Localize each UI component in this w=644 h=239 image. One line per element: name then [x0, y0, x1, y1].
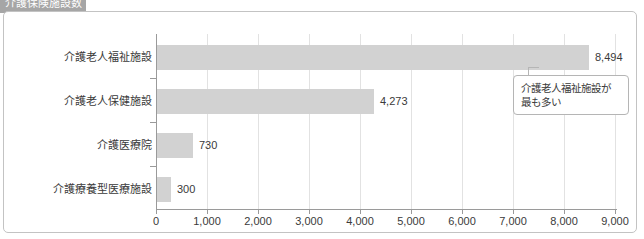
x-axis-tick — [207, 210, 208, 214]
x-axis-tick-label: 0 — [153, 215, 159, 227]
x-axis-tick-label: 5,000 — [397, 215, 425, 227]
category-label: 介護老人保健施設 — [12, 92, 152, 108]
x-axis-tick-label: 9,000 — [601, 215, 629, 227]
x-axis-tick — [513, 210, 514, 214]
x-axis-tick-label: 6,000 — [448, 215, 476, 227]
chart-frame: 介護老人福祉施設 介護老人保健施設 介護医療院 介護療養型医療施設 8,494 … — [3, 11, 637, 233]
value-label: 730 — [199, 139, 217, 151]
annotation-callout: 介護老人福祉施設が 最も多い — [513, 75, 629, 115]
x-axis-tick — [258, 210, 259, 214]
value-label: 300 — [177, 183, 195, 195]
y-axis-line — [156, 34, 157, 210]
y-axis-tick — [150, 78, 156, 79]
x-axis-tick-label: 3,000 — [295, 215, 323, 227]
bar[interactable] — [156, 45, 589, 70]
x-axis-tick — [156, 210, 157, 214]
x-axis-tick — [564, 210, 565, 214]
category-label: 介護医療院 — [12, 136, 152, 152]
callout-line-2: 最も多い — [521, 95, 621, 109]
category-label: 介護老人福祉施設 — [12, 48, 152, 64]
x-axis-tick-label: 8,000 — [550, 215, 578, 227]
x-axis-tick — [360, 210, 361, 214]
plot-area — [156, 34, 616, 209]
x-axis-tick-label: 1,000 — [193, 215, 221, 227]
y-axis-tick — [150, 166, 156, 167]
x-axis-tick — [411, 210, 412, 214]
category-label: 介護療養型医療施設 — [12, 180, 152, 196]
category-axis-labels: 介護老人福祉施設 介護老人保健施設 介護医療院 介護療養型医療施設 — [8, 12, 152, 234]
value-label: 4,273 — [380, 95, 408, 107]
x-axis-tick-label: 2,000 — [244, 215, 272, 227]
bar[interactable] — [156, 177, 171, 202]
callout-line-1: 介護老人福祉施設が — [521, 82, 611, 94]
x-axis-tick-label: 4,000 — [346, 215, 374, 227]
x-axis-tick — [462, 210, 463, 214]
y-axis-tick — [150, 122, 156, 123]
x-axis-tick — [309, 210, 310, 214]
x-axis-tick-label: 7,000 — [499, 215, 527, 227]
bar[interactable] — [156, 89, 374, 114]
bar[interactable] — [156, 133, 193, 158]
x-axis-line — [156, 209, 617, 210]
value-label: 8,494 — [595, 51, 623, 63]
x-axis-tick — [615, 210, 616, 214]
